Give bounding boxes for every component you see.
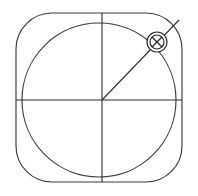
geometric-diagram [0,0,198,196]
diagram-canvas [0,0,198,196]
canvas-background [0,0,198,196]
crossed-circle-marker[interactable] [147,32,167,52]
